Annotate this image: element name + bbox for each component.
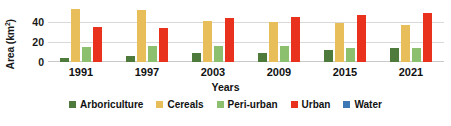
legend-label: Urban [302, 99, 331, 110]
x-axis-tick-label: 1991 [48, 64, 114, 80]
bar-group [312, 6, 378, 62]
legend-item-cereals[interactable]: Cereals [156, 99, 203, 110]
legend-label: Water [354, 99, 381, 110]
x-axis-title: Years [0, 81, 451, 93]
bar-groups [48, 6, 444, 62]
x-axis-tick-label: 2021 [378, 64, 444, 80]
bar-arboriculture[interactable] [192, 53, 201, 62]
x-axis-ticks: 199119972003200920152021 [48, 64, 444, 80]
bar-group [180, 6, 246, 62]
bar-group [246, 6, 312, 62]
bar-cereals[interactable] [269, 22, 278, 62]
bar-peri-urban[interactable] [82, 47, 91, 62]
legend-swatch-icon [156, 101, 163, 108]
legend-item-peri-urban[interactable]: Peri-urban [217, 99, 278, 110]
bar-urban[interactable] [225, 18, 234, 62]
bar-arboriculture[interactable] [258, 53, 267, 62]
bar-cereals[interactable] [203, 21, 212, 62]
bar-cereals[interactable] [335, 23, 344, 62]
legend: ArboricultureCerealsPeri-urbanUrbanWater [0, 99, 451, 110]
legend-swatch-icon [217, 101, 224, 108]
bar-urban[interactable] [423, 13, 432, 62]
legend-item-urban[interactable]: Urban [291, 99, 331, 110]
bar-peri-urban[interactable] [280, 46, 289, 62]
legend-swatch-icon [343, 101, 350, 108]
bar-peri-urban[interactable] [346, 48, 355, 62]
legend-swatch-icon [69, 101, 76, 108]
bar-arboriculture[interactable] [390, 48, 399, 62]
bar-cereals[interactable] [401, 25, 410, 62]
bar-urban[interactable] [159, 28, 168, 62]
x-axis-tick-label: 2015 [312, 64, 378, 80]
y-axis-tick-label: 0 [14, 57, 44, 68]
bar-group [114, 6, 180, 62]
legend-swatch-icon [291, 101, 298, 108]
bar-arboriculture[interactable] [324, 50, 333, 62]
legend-item-water[interactable]: Water [343, 99, 381, 110]
y-axis-tick-label: 40 [14, 17, 44, 28]
bar-arboriculture[interactable] [60, 58, 69, 62]
bar-urban[interactable] [93, 27, 102, 62]
legend-label: Arboriculture [80, 99, 143, 110]
y-axis-title-exponent: 2 [4, 22, 11, 26]
bar-peri-urban[interactable] [214, 46, 223, 62]
bar-cereals[interactable] [137, 10, 146, 62]
legend-label: Peri-urban [228, 99, 278, 110]
legend-label: Cereals [167, 99, 203, 110]
bar-urban[interactable] [291, 17, 300, 62]
bar-group [48, 6, 114, 62]
bar-arboriculture[interactable] [126, 56, 135, 62]
x-axis-tick-label: 2009 [246, 64, 312, 80]
y-axis-ticks: 02040 [14, 6, 44, 62]
y-axis-tick-label: 20 [14, 37, 44, 48]
bar-urban[interactable] [357, 15, 366, 62]
bar-chart: Area (km2) 02040 19911997200320092015202… [0, 0, 451, 126]
bar-peri-urban[interactable] [148, 46, 157, 62]
x-axis-tick-label: 1997 [114, 64, 180, 80]
bar-cereals[interactable] [71, 9, 80, 62]
bar-peri-urban[interactable] [412, 48, 421, 62]
legend-item-arboriculture[interactable]: Arboriculture [69, 99, 143, 110]
x-axis-tick-label: 2003 [180, 64, 246, 80]
bar-group [378, 6, 444, 62]
plot-area [48, 6, 444, 62]
